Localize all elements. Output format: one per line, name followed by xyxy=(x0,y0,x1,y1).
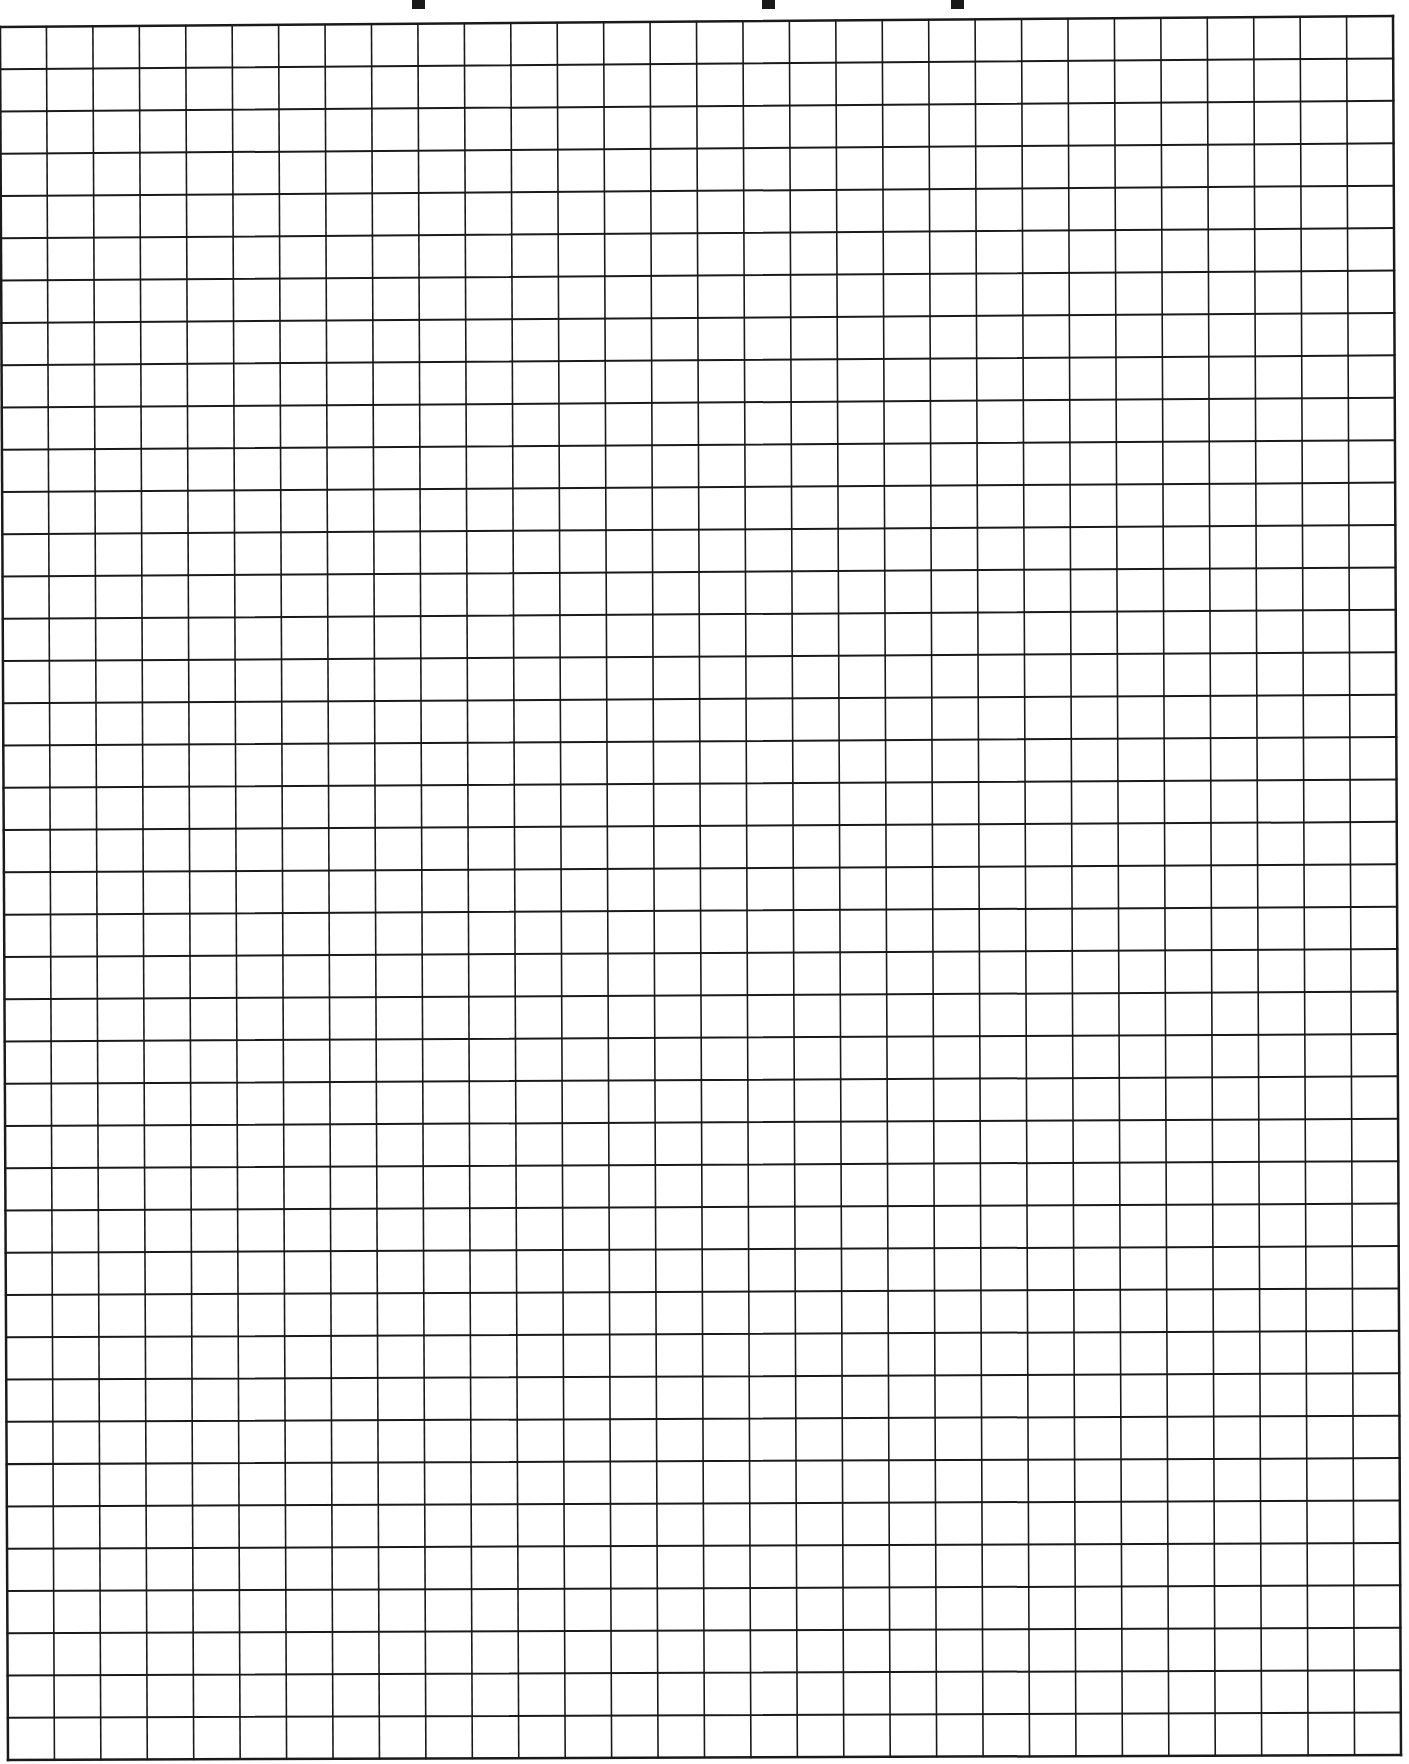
grid-vertical-line xyxy=(1161,18,1169,1756)
grid-vertical-line xyxy=(836,20,844,1757)
grid-vertical-line xyxy=(697,22,705,1758)
grid-vertical-line xyxy=(418,24,426,1759)
grid-vertical-line xyxy=(604,22,612,1758)
grid-lines xyxy=(0,0,1409,1764)
grid-border xyxy=(0,27,8,1760)
grid-vertical-line xyxy=(929,20,937,1757)
grid-vertical-line xyxy=(464,23,472,1758)
grid-vertical-line xyxy=(1300,17,1308,1756)
grid-border xyxy=(1393,16,1401,1755)
grid-vertical-line xyxy=(325,24,333,1758)
grid-vertical-line xyxy=(1207,17,1215,1755)
grid-vertical-line xyxy=(1114,18,1122,1756)
grid-vertical-line xyxy=(1068,19,1076,1757)
grid-vertical-line xyxy=(186,26,194,1760)
grid-vertical-line xyxy=(882,20,890,1757)
grid-vertical-line xyxy=(789,21,797,1757)
graph-paper-grid xyxy=(0,0,1409,1764)
grid-vertical-line xyxy=(511,23,519,1758)
grid-vertical-line xyxy=(557,23,565,1758)
grid-vertical-line xyxy=(1254,17,1262,1755)
grid-vertical-line xyxy=(279,25,287,1759)
grid-vertical-line xyxy=(93,26,101,1759)
grid-vertical-line xyxy=(232,25,240,1759)
grid-vertical-line xyxy=(743,21,751,1757)
grid-vertical-line xyxy=(1022,19,1030,1756)
grid-vertical-line xyxy=(46,27,54,1760)
grid-vertical-line xyxy=(371,24,379,1759)
grid-vertical-line xyxy=(139,26,147,1760)
grid-vertical-line xyxy=(975,19,983,1756)
grid-vertical-line xyxy=(650,22,658,1758)
grid-vertical-line xyxy=(1347,16,1355,1755)
